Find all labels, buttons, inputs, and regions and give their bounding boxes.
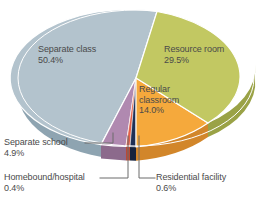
side-wall-separate-school xyxy=(101,145,126,161)
callout-label-separate-school: Separate school 4.9% xyxy=(4,137,68,158)
slice-label-separate-class: Separate class 50.4% xyxy=(38,44,96,65)
pie-chart-figure: Separate class 50.4% Resource room 29.5%… xyxy=(0,0,266,206)
callout-label-homebound-hospital: Homebound/hospital 0.4% xyxy=(4,172,85,193)
side-wall-residential-facility xyxy=(130,147,136,161)
slice-label-regular-classroom: Regular classroom 14.0% xyxy=(139,84,179,116)
slice-label-resource-room: Resource room 29.5% xyxy=(164,44,224,65)
callout-label-residential-facility: Residential facility 0.6% xyxy=(156,172,226,193)
